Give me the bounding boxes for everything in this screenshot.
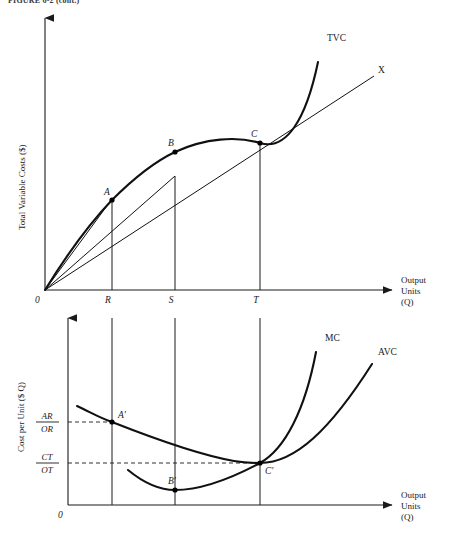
- lower-point-a-prime-label: A': [117, 410, 127, 420]
- lower-mc-curve-label: MC: [325, 333, 340, 343]
- lower-x-axis-label-line3: (Q): [401, 512, 414, 522]
- upper-panel: Total Variable Costs ($) Output Units (Q…: [17, 18, 427, 307]
- upper-point-a-label: A: [103, 187, 110, 197]
- lower-ytick-ct-denominator: OT: [41, 465, 53, 475]
- upper-x-axis-label-line3: (Q): [401, 297, 414, 307]
- lower-origin-label: 0: [58, 510, 63, 520]
- lower-ytick-ar-denominator: OR: [41, 424, 53, 434]
- upper-point-a-marker: [109, 197, 114, 202]
- lower-ytick-ct-ot: CT OT: [36, 452, 59, 475]
- upper-tick-label-t: T: [253, 295, 259, 305]
- figure-container: FIGURE 6-2 (cont.) Total Variable Costs …: [0, 0, 450, 537]
- lower-point-c-prime-marker: [257, 460, 262, 465]
- upper-point-b-marker: [172, 149, 177, 154]
- upper-y-axis-label: Total Variable Costs ($): [17, 145, 27, 230]
- upper-origin-label: 0: [35, 295, 40, 305]
- upper-tvc-curve-label: TVC: [327, 33, 346, 43]
- upper-tick-label-r: R: [104, 295, 111, 305]
- upper-tvc-curve: [45, 62, 318, 290]
- lower-ytick-ar-or: AR OR: [36, 411, 59, 434]
- lower-ytick-ar-numerator: AR: [41, 411, 53, 421]
- lower-x-axis-label-line1: Output: [401, 490, 427, 500]
- economics-figure-svg: Total Variable Costs ($) Output Units (Q…: [0, 0, 450, 537]
- lower-point-c-prime-label: C': [265, 466, 274, 476]
- lower-mc-curve: [128, 352, 316, 490]
- upper-ray-x-line: [45, 76, 374, 290]
- upper-chord-ob: [45, 176, 175, 290]
- lower-ytick-ct-numerator: CT: [41, 452, 53, 462]
- upper-point-b-label: B: [168, 138, 174, 148]
- upper-point-c-marker: [257, 140, 262, 145]
- lower-point-a-prime-marker: [109, 419, 114, 424]
- upper-tick-label-s: S: [169, 295, 174, 305]
- upper-ray-x-label: X: [378, 65, 385, 75]
- upper-x-axis-label-line2: Units: [401, 286, 421, 296]
- lower-panel: Cost per Unit ($ Q) Output Units (Q) 0 A…: [16, 318, 427, 522]
- lower-point-b-prime-marker: [172, 487, 177, 492]
- lower-x-axis-label-line2: Units: [401, 501, 421, 511]
- lower-avc-curve-label: AVC: [378, 347, 397, 357]
- upper-chord-oa: [45, 199, 112, 290]
- upper-x-axis-label-line1: Output: [401, 275, 427, 285]
- lower-point-b-prime-label: B': [168, 476, 177, 486]
- upper-point-c-label: C: [251, 129, 258, 139]
- lower-y-axis-label: Cost per Unit ($ Q): [16, 382, 26, 452]
